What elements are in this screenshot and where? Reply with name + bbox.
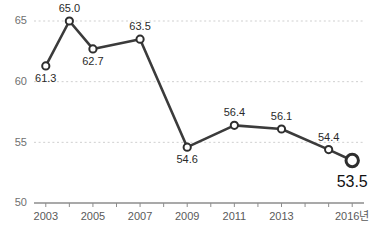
data-point-marker-2004 [66,17,73,24]
x-tick-label-2013: 2013 [269,210,293,222]
data-point-marker-2005 [89,45,96,52]
data-point-marker-2011 [231,122,238,129]
y-tick-label-50: 50 [15,196,27,208]
y-tick-label-55: 55 [15,136,27,148]
x-tick-label-2003: 2003 [34,210,58,222]
data-point-label-2011: 56.4 [224,106,245,118]
data-point-marker-2015 [325,146,332,153]
data-point-marker-2007 [136,36,143,43]
data-point-marker-2013 [278,125,285,132]
y-tick-label-60: 60 [15,75,27,87]
data-point-label-2016: 53.5 [337,173,368,190]
data-point-marker-2016 [346,154,358,166]
data-point-marker-2009 [184,144,191,151]
data-point-markers [42,17,358,166]
data-point-label-2003: 61.3 [35,72,56,84]
x-tick-label-2016: 2016년 [335,210,369,222]
x-axis-tick-labels: 2003200520072009201120132016년 [34,210,370,222]
x-tick-label-2005: 2005 [81,210,105,222]
data-point-label-2005: 62.7 [82,55,103,67]
series-polyline [46,21,352,161]
x-tick-label-2011: 2011 [223,210,247,222]
data-point-label-2007: 63.5 [129,20,150,32]
data-point-label-2015: 54.4 [318,131,339,143]
data-point-label-2009: 54.6 [176,153,197,165]
data-point-label-2004: 65.0 [59,2,80,14]
data-point-value-labels: 61.365.062.763.554.656.456.154.453.5 [35,2,368,190]
y-tick-label-65: 65 [15,14,27,26]
x-tick-label-2009: 2009 [175,210,199,222]
data-point-marker-2003 [42,62,49,69]
y-axis-tick-labels: 50556065 [15,14,27,208]
x-tick-label-2007: 2007 [128,210,152,222]
chart-plot-area: 50556065 2003200520072009201120132016년 6… [0,0,370,235]
data-series-line [46,21,352,161]
line-chart-container: 50556065 2003200520072009201120132016년 6… [0,0,370,235]
data-point-label-2013: 56.1 [271,110,292,122]
